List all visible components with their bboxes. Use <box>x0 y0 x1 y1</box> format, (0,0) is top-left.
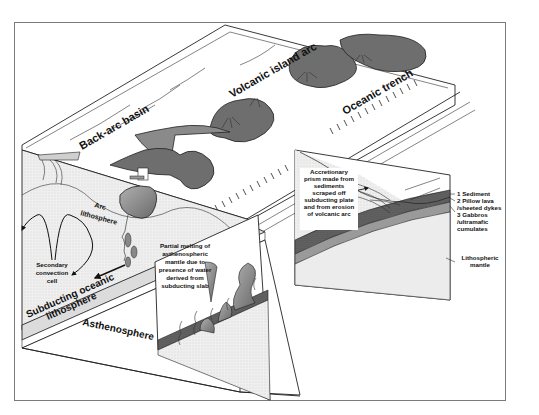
label-secondary: Secondary <box>36 261 68 268</box>
text-line: prism made from <box>304 175 355 182</box>
text-line: and from erosion <box>304 203 355 210</box>
label-ultramafic: /ultramafic <box>457 218 489 225</box>
text-line: of volcanic arc <box>307 210 351 217</box>
text-line: Partial melting of <box>160 242 211 249</box>
label-convection: convection <box>36 269 69 276</box>
label-cumulates: cumulates <box>457 225 488 232</box>
label-partial-melting: Partial melting of asthenospheric mantle… <box>159 242 212 289</box>
text-line: subducting plate <box>304 196 354 203</box>
label-mantle: mantle <box>470 261 491 268</box>
text-line: subducting slab <box>161 282 209 289</box>
label-cell: cell <box>47 277 58 284</box>
text-line: Accretionary <box>310 168 348 175</box>
text-line: scraped off <box>312 189 346 196</box>
label-sediment: 1 Sediment <box>457 190 490 197</box>
label-accretionary-prism: Accretionary prism made from sediments s… <box>300 168 358 230</box>
text-line: asthenospheric <box>162 250 208 257</box>
text-line: sediments <box>314 182 345 189</box>
label-pillow-lava: 2 Pillow lava <box>457 197 494 204</box>
text-line: presence of water <box>159 266 212 273</box>
text-line: mantle due to <box>165 258 205 265</box>
label-lithospheric: Lithospheric <box>461 254 499 261</box>
label-sheeted-dykes: /sheeted dykes <box>457 204 502 211</box>
label-gabbros: 3 Gabbros <box>457 211 488 218</box>
text-line: derived from <box>166 274 204 281</box>
subduction-zone-diagram: Back-arc basin Volcanic island arc Ocean… <box>0 0 539 415</box>
